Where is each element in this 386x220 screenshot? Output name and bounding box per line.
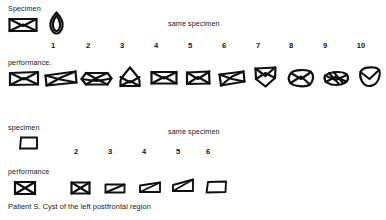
drawing-trial-7-icon: [218, 70, 246, 87]
trial-number-2: 2: [81, 42, 95, 50]
box-drawing-trial-4-icon: [138, 181, 162, 194]
specimen-envelope-icon: [8, 17, 38, 33]
box-drawing-trial-1-icon: [13, 180, 37, 196]
upper-specimen-label: Specimen: [8, 5, 41, 13]
upper-same-specimen-label: same specimen: [168, 20, 220, 28]
figure-sheet: Specimen same specimen 1 2 3 4 5 6 7 8 9…: [0, 0, 386, 220]
trial-number-9: 9: [318, 42, 332, 50]
drawing-trial-9-icon: [287, 68, 315, 88]
figure-caption: Patient S. Cyst of the left postfrontal …: [8, 202, 151, 211]
box-trial-number-6: 6: [201, 148, 215, 156]
trial-number-8: 8: [284, 42, 298, 50]
specimen-leaf-icon: [48, 11, 65, 35]
box-trial-number-5: 5: [171, 148, 185, 156]
box-drawing-trial-3-icon: [104, 183, 126, 194]
box-trial-number-3: 3: [103, 148, 117, 156]
trial-number-1: 1: [46, 42, 60, 50]
lower-specimen-label: specimen: [8, 124, 40, 132]
trial-number-5: 5: [183, 42, 197, 50]
drawing-trial-3-icon: [80, 71, 113, 87]
trial-number-10: 10: [354, 42, 368, 50]
specimen-open-box-icon: [18, 136, 40, 151]
trial-number-4: 4: [149, 42, 163, 50]
drawing-trial-6-icon: [185, 70, 211, 86]
lower-performance-label: performance: [8, 168, 49, 176]
drawing-trial-10-icon: [322, 70, 350, 87]
trial-number-6: 6: [217, 42, 231, 50]
drawing-trial-4-icon: [118, 66, 142, 88]
lower-same-specimen-label: same specimen: [168, 128, 220, 136]
drawing-trial-11-icon: [357, 66, 382, 88]
trial-number-7: 7: [251, 42, 265, 50]
upper-performance-label: performance.: [8, 59, 52, 67]
drawing-trial-2-icon: [44, 70, 78, 87]
box-drawing-trial-6-icon: [205, 180, 228, 194]
trial-number-3: 3: [115, 42, 129, 50]
box-trial-number-2: 2: [69, 148, 83, 156]
drawing-trial-5-icon: [150, 70, 178, 86]
drawing-trial-1-icon: [8, 70, 40, 87]
drawing-trial-8-icon: [253, 66, 278, 88]
box-trial-number-4: 4: [137, 148, 151, 156]
box-drawing-trial-5-icon: [171, 178, 195, 194]
box-drawing-trial-2-icon: [70, 181, 91, 195]
